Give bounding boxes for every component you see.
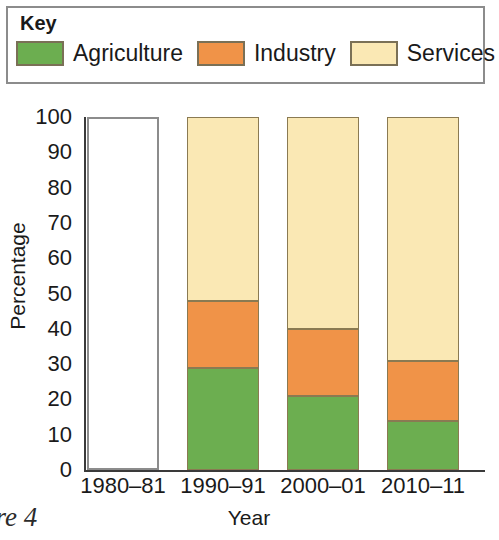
- bar-segment-agriculture: [187, 368, 259, 470]
- y-axis-tick-label: 70: [22, 212, 72, 234]
- bar-group: [84, 117, 485, 470]
- bar-segment-agriculture: [387, 421, 459, 470]
- bar-2010-11: [387, 117, 459, 470]
- legend-items: Agriculture Industry Services: [16, 41, 499, 66]
- bar-segment-services: [187, 117, 259, 301]
- y-axis-tick-label: 40: [22, 318, 72, 340]
- x-axis-tick-labels: 1980–811990–912000–012010–11: [84, 474, 485, 504]
- y-axis-tick-label: 30: [22, 353, 72, 375]
- legend-title: Key: [20, 12, 57, 35]
- legend-item-services: Services: [350, 41, 499, 66]
- bar-segment-industry: [287, 329, 359, 396]
- bar-segment-industry: [387, 361, 459, 421]
- x-axis-tick-label: 2010–11: [368, 474, 478, 498]
- y-axis-tick-label: 20: [22, 388, 72, 410]
- legend-label: Agriculture: [73, 42, 183, 65]
- y-axis-tick-label: 100: [22, 106, 72, 128]
- bar-1990-91: [187, 117, 259, 470]
- x-axis-tick-label: 1980–81: [68, 474, 178, 498]
- bar-2000-01: [287, 117, 359, 470]
- legend-swatch-icon: [350, 41, 398, 66]
- bar-1980-81: [87, 117, 159, 470]
- y-axis-tick-label: 90: [22, 141, 72, 163]
- legend-label: Industry: [254, 42, 336, 65]
- y-axis-tick-label: 80: [22, 177, 72, 199]
- y-axis-tick-label: 10: [22, 424, 72, 446]
- legend-item-agriculture: Agriculture: [16, 41, 197, 66]
- bar-segment-agriculture: [287, 396, 359, 470]
- legend-swatch-icon: [197, 41, 245, 66]
- y-axis-tick-labels: 0102030405060708090100: [22, 84, 72, 540]
- figure-caption: ure 4: [0, 502, 37, 533]
- legend-item-industry: Industry: [197, 41, 350, 66]
- chart-legend: Key Agriculture Industry Services: [6, 6, 485, 84]
- x-axis-title: Year: [84, 506, 414, 530]
- bar-segment-services: [387, 117, 459, 361]
- bar-segment-services: [287, 117, 359, 329]
- stacked-bar-chart: Percentage 0102030405060708090100 1980–8…: [0, 84, 485, 540]
- legend-swatch-icon: [16, 41, 64, 66]
- legend-label: Services: [407, 42, 495, 65]
- y-axis-tick-label: 60: [22, 247, 72, 269]
- x-axis-tick-label: 1990–91: [168, 474, 278, 498]
- y-axis-tick-label: 0: [22, 459, 72, 481]
- x-axis-line: [84, 470, 485, 472]
- y-axis-tick-label: 50: [22, 283, 72, 305]
- bar-segment-industry: [187, 301, 259, 368]
- x-axis-tick-label: 2000–01: [268, 474, 378, 498]
